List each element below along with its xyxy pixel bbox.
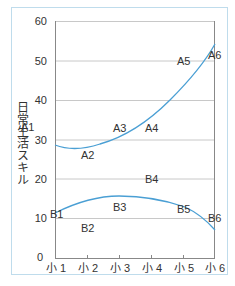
y-tick-60: 60 bbox=[35, 15, 47, 27]
y-tick-labels: 60 50 40 30 20 10 0 bbox=[35, 15, 47, 263]
x-tick-labels: 小 1 小 2 小 3 小 4 小 5 小 6 bbox=[46, 262, 225, 274]
gridlines bbox=[55, 22, 215, 219]
label-b1: B1 bbox=[50, 208, 63, 220]
label-a4: A4 bbox=[145, 122, 158, 134]
x-tick-4: 小 4 bbox=[142, 262, 162, 274]
y-tick-0: 0 bbox=[37, 251, 43, 263]
x-tick-3: 小 3 bbox=[110, 262, 130, 274]
y-tick-10: 10 bbox=[35, 212, 47, 224]
x-tick-2: 小 2 bbox=[78, 262, 98, 274]
x-tick-1: 小 1 bbox=[46, 262, 66, 274]
label-a3: A3 bbox=[113, 122, 126, 134]
label-b4: B4 bbox=[145, 173, 158, 185]
label-a5: A5 bbox=[177, 55, 190, 67]
x-tick-6: 小 6 bbox=[205, 262, 225, 274]
label-a6: A6 bbox=[208, 49, 221, 61]
y-axis-label: 日常生活スキル bbox=[13, 101, 27, 185]
series-a-curve bbox=[55, 44, 215, 149]
y-tick-40: 40 bbox=[35, 94, 47, 106]
y-tick-50: 50 bbox=[35, 55, 47, 67]
label-b2: B2 bbox=[81, 222, 94, 234]
y-tick-20: 20 bbox=[35, 173, 47, 185]
label-b5: B5 bbox=[177, 203, 190, 215]
label-b3: B3 bbox=[113, 201, 126, 213]
label-b6: B6 bbox=[208, 212, 221, 224]
label-a2: A2 bbox=[81, 149, 94, 161]
y-tick-30: 30 bbox=[35, 134, 47, 146]
x-tick-5: 小 5 bbox=[174, 262, 194, 274]
series-a-labels: A1 A2 A3 A4 A5 A6 bbox=[21, 49, 221, 161]
series-b-curve bbox=[55, 196, 215, 230]
line-chart: 60 50 40 30 20 10 0 小 1 小 2 小 3 小 4 小 5 … bbox=[0, 0, 235, 286]
